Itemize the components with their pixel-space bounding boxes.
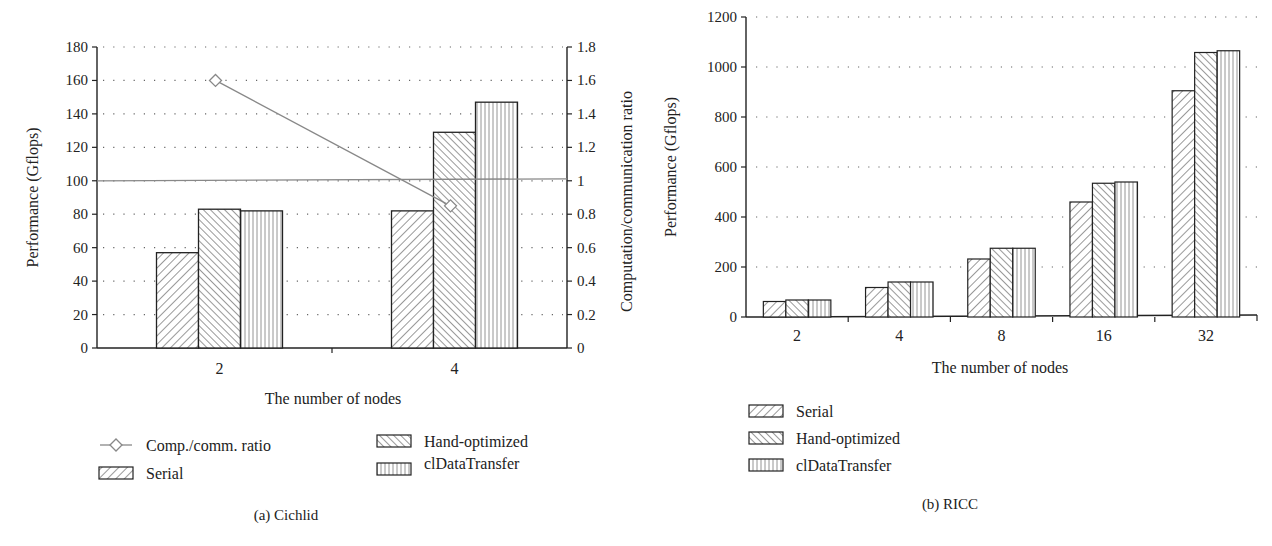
y-tick-label: 600 (715, 159, 738, 175)
y-tick-label: 0 (81, 340, 89, 356)
y-tick-label: 1000 (707, 59, 737, 75)
bar-cldatatransfer (1217, 51, 1240, 317)
y-tick-label: 1200 (707, 9, 737, 25)
legend-serial-label: Serial (146, 465, 184, 482)
bar-serial (392, 211, 434, 348)
caption-b: (b) RICC (922, 496, 978, 513)
bar-serial (157, 253, 199, 348)
y-tick-label: 400 (715, 209, 738, 225)
bar-hand-optimized (434, 132, 476, 348)
legend-cl-label: clDataTransfer (796, 457, 892, 474)
y2-tick-label: 0.6 (577, 240, 596, 256)
y2-tick-label: 0 (577, 340, 585, 356)
legend-ratio-label: Comp./comm. ratio (146, 437, 271, 455)
diamond-marker (210, 74, 222, 86)
bar-serial (1172, 91, 1195, 317)
x-tick-label: 2 (793, 327, 801, 344)
y2-tick-label: 1.6 (577, 72, 596, 88)
legend-cl-label: clDataTransfer (424, 455, 520, 472)
ricc-chart: 0200400600800100012002481632Performance … (662, 9, 1263, 513)
legend-hand-label: Hand-optimized (796, 430, 900, 448)
bar-cldatatransfer (1115, 182, 1138, 317)
bar-hand-optimized (1092, 183, 1115, 317)
y-tick-label: 800 (715, 109, 738, 125)
y2-tick-label: 1 (577, 173, 585, 189)
y2-axis-label: Computation/communication ratio (618, 91, 636, 312)
y2-tick-label: 1.2 (577, 139, 596, 155)
caption-a: (a) Cichlid (254, 507, 319, 524)
y-tick-label: 200 (715, 259, 738, 275)
y-axis-label: Performance (Gflops) (24, 128, 42, 268)
bar-cldatatransfer (1013, 248, 1036, 317)
legend-hand-swatch (377, 435, 411, 447)
bar-cldatatransfer (911, 282, 934, 317)
legend-serial-swatch (749, 405, 783, 417)
x-tick-label: 32 (1198, 327, 1214, 344)
bar-hand-optimized (786, 300, 809, 317)
y-tick-label: 80 (73, 206, 88, 222)
bar-cldatatransfer (808, 300, 831, 317)
legend-hand-label: Hand-optimized (424, 433, 528, 451)
y-tick-label: 20 (73, 307, 88, 323)
x-axis-label: The number of nodes (265, 390, 401, 407)
y-tick-label: 140 (66, 106, 89, 122)
cichlid-chart: 02040608010012014016018000.20.40.60.811.… (24, 39, 636, 524)
y2-tick-label: 1.8 (577, 39, 596, 55)
bar-serial (763, 302, 786, 318)
bar-cldatatransfer (241, 211, 283, 348)
legend-serial-label: Serial (796, 403, 834, 420)
y-tick-label: 120 (66, 139, 89, 155)
y-tick-label: 100 (66, 173, 89, 189)
x-tick-label: 8 (998, 327, 1006, 344)
y-tick-label: 40 (73, 273, 88, 289)
figure: 02040608010012014016018000.20.40.60.811.… (0, 0, 1272, 546)
legend-ratio-icon (110, 439, 122, 451)
x-tick-label: 4 (451, 360, 459, 377)
bar-serial (866, 288, 889, 318)
y-tick-label: 160 (66, 72, 89, 88)
y2-tick-label: 0.4 (577, 273, 596, 289)
legend-hand-swatch (749, 432, 783, 444)
y2-tick-label: 0.2 (577, 307, 596, 323)
ratio-line (216, 80, 451, 205)
x-tick-label: 16 (1096, 327, 1112, 344)
y2-tick-label: 1.4 (577, 106, 596, 122)
legend-cl-swatch (377, 463, 411, 475)
y-tick-label: 0 (730, 309, 738, 325)
bar-serial (1070, 202, 1093, 317)
x-tick-label: 2 (216, 360, 224, 377)
bar-hand-optimized (1195, 53, 1218, 318)
bar-serial (968, 259, 991, 317)
y2-tick-label: 0.8 (577, 206, 596, 222)
y-tick-label: 180 (66, 39, 89, 55)
bar-cldatatransfer (476, 102, 518, 348)
legend-serial-swatch (99, 467, 133, 479)
bar-hand-optimized (199, 209, 241, 348)
y-axis-label: Performance (Gflops) (662, 97, 680, 237)
x-tick-label: 4 (895, 327, 903, 344)
bar-hand-optimized (990, 248, 1013, 317)
y-tick-label: 60 (73, 240, 88, 256)
legend-cl-swatch (749, 459, 783, 471)
bar-hand-optimized (888, 282, 911, 317)
x-axis-label: The number of nodes (932, 359, 1068, 376)
